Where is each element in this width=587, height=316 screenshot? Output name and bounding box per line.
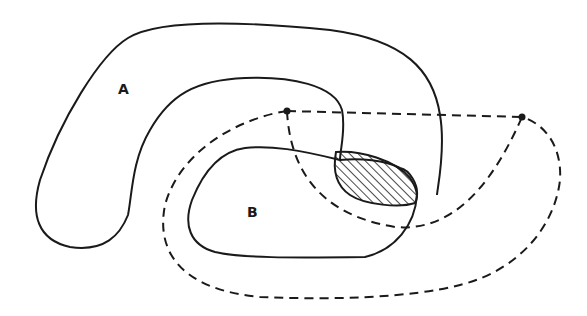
diagram-canvas: A B	[0, 0, 587, 316]
region-a-label: A	[118, 81, 129, 97]
region-c-outline	[163, 111, 560, 298]
region-a-outline	[36, 23, 442, 247]
left-anchor-point	[284, 108, 291, 115]
diagram-svg	[0, 0, 587, 316]
region-b-label: B	[247, 204, 258, 220]
right-anchor-point	[519, 114, 526, 121]
intersection-hatched	[335, 152, 417, 206]
